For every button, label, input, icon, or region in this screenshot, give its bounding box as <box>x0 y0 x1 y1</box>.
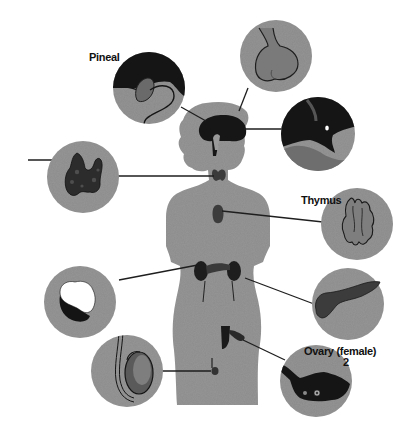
label-ovary: Ovary (female) <box>304 346 376 357</box>
label-thymus: Thymus <box>301 195 341 206</box>
thyroid-callout <box>47 141 119 213</box>
pineal-callout <box>110 52 190 125</box>
pituitary-callout <box>240 20 312 92</box>
pancreas-callout <box>312 268 384 340</box>
adrenal-callout <box>44 266 116 338</box>
thymus-in-body <box>213 205 224 224</box>
endocrine-diagram <box>0 0 414 442</box>
label-ovary-number: 2 <box>343 357 349 368</box>
hypothalamus-callout <box>278 95 360 175</box>
thyroid-in-body <box>212 169 226 181</box>
label-pineal: Pineal <box>89 52 120 63</box>
line-pituitary <box>239 88 248 111</box>
testis-callout <box>91 332 163 407</box>
